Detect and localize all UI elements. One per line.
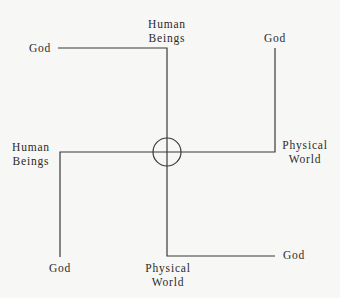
label-left-human-beings: Human Beings (12, 140, 50, 168)
label-text: Beings (12, 154, 50, 168)
label-text: God (29, 42, 51, 54)
bottom-arm (167, 152, 275, 256)
label-bottom-right-god: God (283, 248, 305, 262)
label-text: Physical (282, 138, 327, 152)
label-right-physical-world: Physical World (282, 138, 327, 166)
label-text: Physical (145, 261, 190, 275)
label-text: Human (12, 140, 50, 154)
label-text: World (145, 275, 190, 289)
label-text: God (283, 249, 305, 261)
top-arm (58, 48, 167, 152)
label-top-left-god: God (29, 41, 51, 55)
right-arm (167, 48, 275, 152)
left-arm (60, 152, 167, 257)
label-text: World (282, 152, 327, 166)
label-bottom-left-god: God (49, 261, 71, 275)
label-top-human-beings: Human Beings (148, 17, 186, 45)
label-bottom-physical-world: Physical World (145, 261, 190, 289)
label-text: Human (148, 17, 186, 31)
label-top-right-god: God (264, 31, 286, 45)
label-text: God (49, 262, 71, 274)
label-text: Beings (148, 31, 186, 45)
label-text: God (264, 32, 286, 44)
